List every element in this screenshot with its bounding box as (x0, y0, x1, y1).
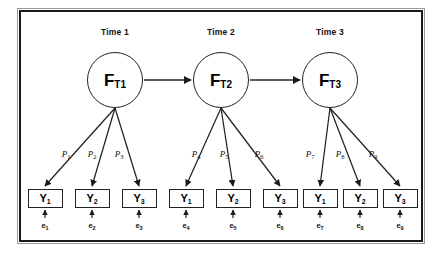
loading-subscript: 5 (225, 153, 228, 160)
latent-factor-t1: FT1 (87, 52, 143, 108)
indicator-subscript: 3 (402, 198, 406, 205)
indicator-label: Y2 (86, 193, 97, 204)
loading-arrow-7 (320, 108, 330, 186)
indicator-symbol: Y (180, 192, 187, 204)
indicator-subscript: 2 (235, 198, 239, 205)
loading-arrow-4 (186, 108, 221, 186)
factor-subscript: T3 (329, 79, 341, 90)
indicator-symbol: Y (354, 192, 361, 204)
factor-loading-arrows (45, 108, 400, 186)
indicator-symbol: Y (86, 192, 93, 204)
latent-factor-t3: FT3 (302, 52, 358, 108)
path-diagram-canvas (0, 0, 442, 256)
loading-label-p6: P6 (255, 150, 264, 159)
indicator-subscript: 3 (282, 198, 286, 205)
indicator-subscript: 2 (94, 198, 98, 205)
loading-arrow-9 (330, 108, 400, 186)
latent-factor-label-t3: FT3 (319, 72, 341, 89)
loading-arrow-6 (221, 108, 280, 186)
loading-label-p2: P2 (88, 150, 97, 159)
error-subscript: 8 (361, 225, 364, 231)
error-label-e3: e3 (135, 222, 142, 230)
indicator-label: Y2 (227, 193, 238, 204)
factor-symbol: F (104, 71, 114, 90)
error-label-e7: e7 (316, 222, 323, 230)
indicator-box: Y3 (383, 189, 418, 208)
error-subscript: 5 (234, 225, 237, 231)
loading-arrow-1 (45, 108, 115, 186)
error-subscript: 7 (321, 225, 324, 231)
loading-label-p1: P1 (62, 150, 71, 159)
loading-label-p4: P4 (192, 150, 201, 159)
loading-symbol: P (369, 149, 375, 159)
indicator-box: Y2 (216, 189, 251, 208)
loading-symbol: P (115, 149, 121, 159)
factor-subscript: T1 (114, 79, 126, 90)
loading-label-p9: P9 (369, 150, 378, 159)
loading-symbol: P (88, 149, 94, 159)
indicator-subscript: 1 (322, 198, 326, 205)
error-label-e5: e5 (229, 222, 236, 230)
loading-label-p3: P3 (115, 150, 124, 159)
error-subscript: 3 (140, 225, 143, 231)
error-label-e6: e6 (276, 222, 283, 230)
loading-subscript: 7 (311, 153, 314, 160)
error-label-e4: e4 (182, 222, 189, 230)
loading-subscript: 2 (93, 153, 96, 160)
indicator-label: Y2 (354, 193, 365, 204)
loading-symbol: P (336, 149, 342, 159)
indicator-subscript: 1 (188, 198, 192, 205)
loading-label-p8: P8 (336, 150, 345, 159)
loading-arrow-8 (330, 108, 360, 186)
error-subscript: 4 (187, 225, 190, 231)
indicator-symbol: Y (39, 192, 46, 204)
time-header-3: Time 3 (316, 27, 344, 37)
error-label-e9: e9 (396, 222, 403, 230)
factor-subscript: T2 (220, 79, 232, 90)
indicator-symbol: Y (274, 192, 281, 204)
indicator-box: Y2 (343, 189, 378, 208)
indicator-subscript: 3 (141, 198, 145, 205)
loading-symbol: P (220, 149, 226, 159)
diagram-page: Time 1Time 2Time 3 FT1FT2FT3 P1P2P3P4P5P… (0, 0, 442, 256)
time-header-2: Time 2 (207, 27, 235, 37)
indicator-label: Y3 (394, 193, 405, 204)
error-subscript: 2 (93, 225, 96, 231)
loading-symbol: P (255, 149, 261, 159)
factor-symbol: F (210, 71, 220, 90)
loading-symbol: P (62, 149, 68, 159)
error-subscript: 6 (281, 225, 284, 231)
loading-arrow-5 (221, 108, 233, 186)
indicator-label: Y3 (274, 193, 285, 204)
error-subscript: 9 (401, 225, 404, 231)
loading-label-p7: P7 (306, 150, 315, 159)
error-label-e1: e1 (41, 222, 48, 230)
indicator-label: Y1 (39, 193, 50, 204)
indicator-subscript: 2 (362, 198, 366, 205)
loading-subscript: 8 (341, 153, 344, 160)
error-subscript: 1 (46, 225, 49, 231)
time-header-1: Time 1 (101, 27, 129, 37)
indicator-symbol: Y (394, 192, 401, 204)
indicator-subscript: 1 (47, 198, 51, 205)
loading-symbol: P (192, 149, 198, 159)
loading-subscript: 9 (374, 153, 377, 160)
indicator-box: Y2 (75, 189, 110, 208)
loading-arrow-3 (115, 108, 139, 186)
indicator-label: Y1 (180, 193, 191, 204)
loading-subscript: 6 (260, 153, 263, 160)
latent-factor-t2: FT2 (193, 52, 249, 108)
latent-factor-label-t1: FT1 (104, 72, 126, 89)
error-label-e8: e8 (356, 222, 363, 230)
indicator-box: Y1 (303, 189, 338, 208)
indicator-label: Y3 (133, 193, 144, 204)
latent-factor-label-t2: FT2 (210, 72, 232, 89)
indicator-symbol: Y (227, 192, 234, 204)
indicator-box: Y1 (169, 189, 204, 208)
factor-symbol: F (319, 71, 329, 90)
loading-arrow-2 (92, 108, 115, 186)
indicator-symbol: Y (314, 192, 321, 204)
error-label-e2: e2 (88, 222, 95, 230)
indicator-box: Y1 (28, 189, 63, 208)
indicator-box: Y3 (122, 189, 157, 208)
